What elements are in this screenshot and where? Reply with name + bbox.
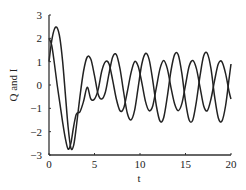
plot-area xyxy=(49,27,231,150)
x-tick-label: 0 xyxy=(46,158,52,170)
x-tick-label: 15 xyxy=(180,158,192,170)
y-tick-label: −3 xyxy=(30,149,42,161)
y-tick-labels: −3−2−10123 xyxy=(30,9,51,161)
y-axis-label: Q and I xyxy=(7,68,19,101)
y-tick-label: −2 xyxy=(30,126,42,138)
x-tick-label: 20 xyxy=(226,158,238,170)
series-line-q xyxy=(49,27,231,150)
y-tick-label: 1 xyxy=(37,56,43,68)
y-tick-label: 3 xyxy=(37,9,43,21)
x-axis-label: t xyxy=(137,172,140,184)
y-tick-label: −1 xyxy=(30,102,42,114)
x-tick-label: 5 xyxy=(92,158,98,170)
y-tick-label: 0 xyxy=(37,79,43,91)
chart-figure: −3−2−10123 05101520 t Q and I xyxy=(0,0,246,190)
x-tick-label: 10 xyxy=(135,158,147,170)
y-tick-label: 2 xyxy=(37,32,43,44)
